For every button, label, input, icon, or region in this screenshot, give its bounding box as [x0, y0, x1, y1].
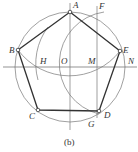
label-m: M	[87, 56, 96, 66]
pentagon-construction-diagram: A B C D E F G H O M N (b)	[0, 0, 138, 152]
label-e: E	[122, 45, 129, 55]
vertex-d	[97, 109, 101, 113]
vertex-b	[16, 48, 20, 52]
label-b: B	[9, 45, 15, 55]
arc-from-a	[18, 50, 120, 76]
vertex-e	[118, 49, 122, 53]
vertex-c	[36, 108, 40, 112]
label-f: F	[98, 1, 105, 11]
label-g: G	[88, 119, 95, 129]
label-a: A	[72, 0, 79, 10]
vertex-a	[68, 10, 72, 14]
label-o: O	[61, 56, 68, 66]
regular-pentagon	[18, 12, 120, 111]
label-n: N	[127, 56, 135, 66]
figure-caption: (b)	[64, 137, 75, 147]
label-h: H	[39, 56, 47, 66]
label-d: D	[103, 110, 111, 120]
label-c: C	[29, 111, 36, 121]
